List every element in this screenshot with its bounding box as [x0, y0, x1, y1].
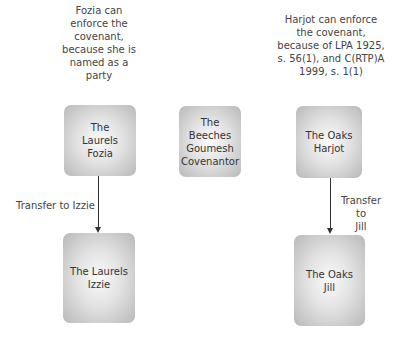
box-text: The Laurels	[70, 265, 128, 278]
note-fozia-enforcement: Fozia can enforce the covenant, because …	[58, 4, 140, 82]
box-text: Goumesh	[181, 142, 239, 155]
box-text: Harjot	[306, 142, 353, 155]
box-text: Jill	[306, 281, 353, 294]
box-beeches-goumesh: The Beeches Goumesh Covenantor	[179, 106, 241, 177]
box-text: Fozia	[82, 147, 118, 160]
transfer-label-jill: Transfer to Jill	[336, 194, 386, 233]
transfer-label-izzie: Transfer to Izzie	[16, 199, 95, 212]
box-oaks-jill: The Oaks Jill	[294, 235, 365, 326]
box-text: The Oaks	[306, 129, 353, 142]
box-oaks-harjot: The Oaks Harjot	[296, 106, 362, 178]
box-text: Laurels	[82, 134, 118, 147]
box-text: Izzie	[70, 278, 128, 291]
box-text: The	[82, 121, 118, 134]
box-laurels-fozia: The Laurels Fozia	[64, 105, 136, 176]
box-laurels-izzie: The Laurels Izzie	[63, 233, 135, 323]
label-text: Transfer to	[336, 194, 386, 220]
box-text: Covenantor	[181, 155, 239, 168]
connector-line-right	[330, 178, 331, 229]
label-text: Jill	[336, 220, 386, 233]
box-text: The Oaks	[306, 268, 353, 281]
note-harjot-enforcement: Harjot can enforce the covenant, because…	[276, 13, 386, 78]
connector-line-left	[98, 176, 99, 228]
box-text: Beeches	[181, 129, 239, 142]
box-text: The	[181, 116, 239, 129]
arrowhead-right-icon	[327, 228, 333, 234]
